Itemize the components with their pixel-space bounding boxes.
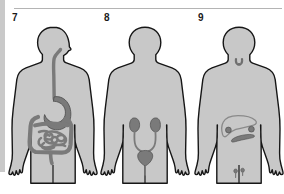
endocrine-system-diagram	[194, 25, 284, 188]
anatomy-figure-plate: 7 8	[0, 0, 284, 194]
body-silhouette	[9, 27, 97, 183]
rectum	[51, 152, 52, 163]
figure-number-label: 8	[104, 12, 110, 24]
figure-number-label: 9	[198, 12, 204, 24]
top-horizontal-rule	[14, 8, 282, 9]
left-adrenal-gland	[226, 127, 232, 133]
figure-7: 7	[8, 12, 98, 188]
figure-number-label: 7	[12, 12, 18, 24]
page-gutter-strip	[0, 0, 5, 172]
urinary-system-diagram	[100, 25, 190, 188]
right-adrenal-gland	[249, 126, 255, 132]
left-kidney	[150, 118, 160, 132]
transverse-colon	[35, 123, 68, 125]
body-silhouette	[195, 27, 283, 183]
digestive-system-diagram	[8, 25, 98, 188]
right-kidney	[130, 118, 140, 132]
figure-8: 8	[100, 12, 190, 188]
figure-9: 9	[194, 12, 284, 188]
